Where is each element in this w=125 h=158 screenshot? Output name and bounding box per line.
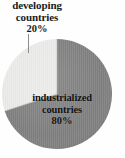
callout-leader-line — [28, 34, 29, 53]
slice-label-line-2: countries — [17, 104, 107, 116]
slice-label-line-1: developing — [0, 0, 74, 12]
slice-percent-developing-countries: 20% — [0, 23, 74, 35]
slice-label-developing-countries: developing countries 20% — [0, 0, 74, 35]
slice-percent-industrialized-countries: 80% — [17, 115, 107, 127]
pie-chart-figure: developing countries 20% industrialized … — [0, 0, 125, 158]
slice-label-line-2: countries — [0, 12, 74, 24]
slice-label-line-1: industrialized — [17, 92, 107, 104]
slice-label-industrialized-countries: industrialized countries 80% — [17, 92, 107, 127]
